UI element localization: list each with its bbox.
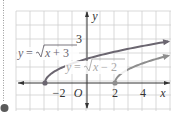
function-graph: −2243Oxyy=x+3y=x−2 bbox=[0, 0, 180, 116]
svg-text:=: = bbox=[74, 60, 81, 74]
y-tick-label: 3 bbox=[76, 32, 82, 46]
equation-label-series-1: y=x+3 bbox=[17, 45, 79, 60]
svg-text:x: x bbox=[44, 46, 51, 60]
x-tick-label: 4 bbox=[140, 86, 146, 100]
curve-arrow-icon bbox=[163, 39, 170, 45]
svg-text:−: − bbox=[101, 60, 108, 74]
x-axis-label: x bbox=[159, 86, 166, 100]
svg-text:+: + bbox=[53, 46, 60, 60]
equation-label-series-2: y=x−2 bbox=[65, 59, 127, 74]
curve-start-point bbox=[112, 80, 117, 85]
svg-text:x: x bbox=[92, 60, 99, 74]
x-axis-left-arrow-icon bbox=[18, 81, 24, 85]
svg-text:3: 3 bbox=[63, 46, 69, 60]
svg-text:=: = bbox=[26, 46, 33, 60]
margin-bullet-icon bbox=[1, 104, 9, 112]
x-tick-label: 2 bbox=[112, 86, 118, 100]
x-axis-right-arrow-icon bbox=[164, 81, 170, 85]
labels: −2243Oxyy=x+3y=x−2 bbox=[17, 9, 166, 100]
svg-text:2: 2 bbox=[111, 60, 117, 74]
curve-arrow-icon bbox=[163, 54, 171, 60]
y-axis-label: y bbox=[91, 9, 98, 23]
svg-text:y: y bbox=[17, 46, 24, 60]
svg-text:y: y bbox=[65, 60, 72, 74]
curve-start-point bbox=[42, 80, 47, 85]
origin-label: O bbox=[74, 86, 83, 100]
x-tick-label: −2 bbox=[53, 86, 66, 100]
